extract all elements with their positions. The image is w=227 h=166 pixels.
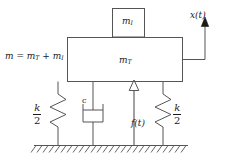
- right-spring: [155, 82, 171, 146]
- mass-total-equation-label: m = mT + mI: [5, 52, 64, 61]
- mass-mT-label: mT: [119, 56, 132, 65]
- ground-hatching: [31, 146, 188, 153]
- damper-coefficient-label: c: [82, 97, 86, 105]
- force-label: f(t): [131, 119, 145, 128]
- right-spring-denominator: 2: [173, 116, 181, 127]
- left-spring-numerator: k: [33, 103, 41, 114]
- left-spring-denominator: 2: [33, 116, 41, 127]
- displacement-label: x(t): [190, 11, 206, 20]
- force-arrow: [129, 80, 139, 145]
- mass-mI-label: mI: [122, 17, 133, 26]
- diagram-canvas: [0, 0, 227, 166]
- mechanical-system-diagram: m = mT + mI mI mT x(t) c f(t) k 2 k 2: [0, 0, 227, 166]
- right-spring-stiffness-label: k 2: [173, 103, 181, 126]
- displacement-arrow: [183, 17, 209, 60]
- left-spring: [50, 82, 66, 146]
- dashpot-damper: [83, 82, 103, 146]
- left-spring-stiffness-label: k 2: [33, 103, 41, 126]
- right-spring-numerator: k: [173, 103, 181, 114]
